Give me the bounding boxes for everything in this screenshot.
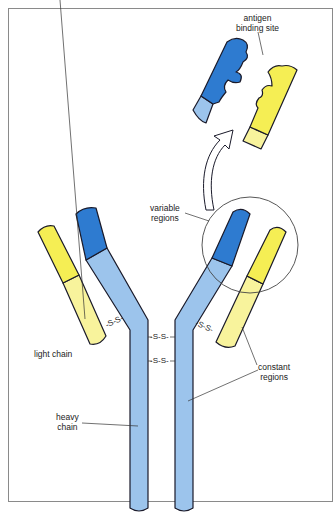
heavy-chain-right (175, 209, 250, 511)
label-heavy-chain: heavy chain (56, 412, 79, 432)
leader-constant-heavy (188, 370, 258, 401)
label-antigen-line1: antigen (236, 13, 279, 23)
antibody-diagram (0, 0, 336, 514)
heavy-chain-left (76, 208, 148, 511)
fragment-heavy (193, 38, 247, 123)
label-variable-line2: regions (150, 213, 180, 223)
fragment-light (243, 66, 297, 150)
label-heavy-line1: heavy (56, 412, 79, 422)
label-variable-regions: variable regions (150, 203, 180, 223)
leader-antigen-binding-site (258, 32, 263, 55)
leader-variable-regions (185, 213, 209, 221)
leader-constant-light (242, 327, 257, 365)
label-constant-line1: constant (258, 362, 290, 372)
label-antigen-line2: binding site (236, 23, 279, 33)
label-constant-regions: constant regions (258, 362, 290, 382)
label-heavy-line2: chain (56, 422, 79, 432)
label-light-chain: light chain (34, 349, 72, 359)
disulfide-bond-hinge-1: -S-S- (150, 332, 169, 341)
label-antigen-binding-site: antigen binding site (236, 13, 279, 33)
label-variable-line1: variable (150, 203, 180, 213)
curved-arrow-icon (204, 130, 233, 210)
disulfide-bond-hinge-2: -S-S- (150, 356, 169, 365)
label-constant-line2: regions (258, 372, 290, 382)
